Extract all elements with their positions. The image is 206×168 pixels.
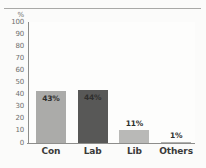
y-axis-tick-label: 0 [0,140,24,147]
y-axis-tick-label: 70 [0,55,24,62]
x-axis-line [27,143,195,144]
bar-lib: 11% [119,130,149,143]
bar-value-label: 1% [161,131,191,140]
y-axis-tick-label: 20 [0,115,24,122]
y-axis-tick-label: 80 [0,43,24,50]
y-axis-tick-label: 40 [0,91,24,98]
bar-lab: 44% [78,90,108,143]
x-axis-tick-label-con: Con [30,146,72,156]
x-axis-tick-label-others: Others [155,146,197,156]
bars-layer: 43%44%11%1% [28,22,195,143]
bar-value-label: 43% [36,94,66,103]
x-axis-tick-label-lib: Lib [114,146,156,156]
y-axis-tick-label: 50 [0,79,24,86]
bar-others: 1% [161,142,191,143]
x-axis-tick-labels: ConLabLibOthers [28,146,195,164]
bar-value-label: 11% [119,119,149,128]
y-axis-tick-label: 100 [0,19,24,26]
bar-con: 43% [36,91,66,143]
bar-chart-figure: % 1009080706050403020100 43%44%11%1% Con… [0,0,206,168]
top-divider-rule [4,8,201,9]
x-axis-tick-label-lab: Lab [72,146,114,156]
y-axis-tick-label: 30 [0,103,24,110]
y-axis-tick-label: 10 [0,127,24,134]
y-axis-tick-label: 90 [0,31,24,38]
bar-value-label: 44% [78,93,108,102]
y-axis-tick-label: 60 [0,67,24,74]
